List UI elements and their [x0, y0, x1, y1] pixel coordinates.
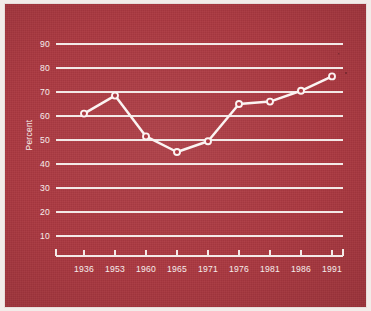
x-tick-label: 1981 — [260, 264, 280, 274]
x-tick-label: 1960 — [136, 264, 156, 274]
scan-speck — [345, 72, 347, 74]
gridlines — [56, 44, 343, 236]
data-point-marker — [174, 149, 180, 155]
y-axis-title: Percent — [24, 119, 34, 150]
x-axis — [56, 249, 343, 256]
y-axis-tick-labels: 90 80 70 60 50 40 30 20 10 — [40, 39, 50, 241]
y-tick-label: 70 — [40, 87, 50, 97]
x-axis-tick-labels: 1936 1953 1960 1965 1971 1976 1981 1986 … — [74, 264, 342, 274]
line-chart-svg: 90 80 70 60 50 40 30 20 10 Percent — [0, 0, 371, 311]
data-point-marker — [112, 93, 118, 99]
x-tick-label: 1965 — [167, 264, 187, 274]
x-tick-label: 1991 — [322, 264, 342, 274]
scan-speck — [338, 53, 339, 54]
data-point-marker — [205, 138, 211, 144]
y-tick-label: 60 — [40, 111, 50, 121]
y-tick-label: 80 — [40, 63, 50, 73]
data-point-marker — [329, 73, 335, 79]
x-tick-label: 1976 — [229, 264, 249, 274]
y-tick-label: 40 — [40, 159, 50, 169]
y-tick-label: 90 — [40, 39, 50, 49]
y-tick-label: 30 — [40, 183, 50, 193]
x-axis-spine — [56, 249, 343, 256]
y-tick-label: 20 — [40, 207, 50, 217]
data-point-marker — [81, 111, 87, 117]
x-tick-label: 1986 — [291, 264, 311, 274]
y-tick-label: 10 — [40, 231, 50, 241]
x-tick-label: 1971 — [198, 264, 218, 274]
chart-figure: 90 80 70 60 50 40 30 20 10 Percent — [0, 0, 371, 311]
data-point-marker — [143, 133, 149, 139]
x-tick-label: 1936 — [74, 264, 94, 274]
data-point-marker — [236, 101, 242, 107]
series-markers — [81, 73, 335, 155]
data-point-marker — [267, 99, 273, 105]
x-tick-label: 1953 — [105, 264, 125, 274]
data-point-marker — [298, 88, 304, 94]
y-tick-label: 50 — [40, 135, 50, 145]
